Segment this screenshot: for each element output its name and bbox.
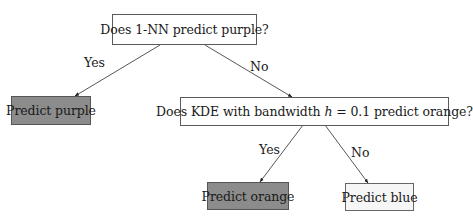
root-no-label: No xyxy=(250,59,268,74)
leaf-predict-purple: Predict purple xyxy=(11,96,91,125)
kde-question-node: Does KDE with bandwidth h = 0.1 predict … xyxy=(180,97,449,126)
kde-question-text-pre: Does KDE with bandwidth xyxy=(156,104,324,119)
kde-no-label: No xyxy=(351,145,369,160)
leaf-predict-orange-label: Predict orange xyxy=(202,189,295,204)
edge-root-yes xyxy=(75,45,160,96)
leaf-predict-blue: Predict blue xyxy=(345,183,414,211)
leaf-predict-blue-label: Predict blue xyxy=(341,190,417,205)
kde-question-text-post: = 0.1 predict orange? xyxy=(332,104,473,119)
root-yes-label: Yes xyxy=(84,55,105,70)
leaf-predict-orange: Predict orange xyxy=(207,182,289,210)
leaf-predict-purple-label: Predict purple xyxy=(6,103,96,118)
kde-yes-label: Yes xyxy=(259,142,280,157)
kde-question-label: Does KDE with bandwidth h = 0.1 predict … xyxy=(156,104,473,119)
edge-root-no xyxy=(205,45,292,97)
root-question-label: Does 1-NN predict purple? xyxy=(100,22,268,37)
root-question-node: Does 1-NN predict purple? xyxy=(112,14,257,45)
